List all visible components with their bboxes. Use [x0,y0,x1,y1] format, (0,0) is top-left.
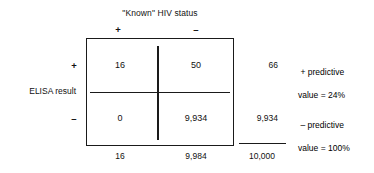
column-group-title: "Known" HIV status [122,8,197,19]
column-header-negative: – [193,24,198,35]
annotation-npv-line1: – predictive [300,120,343,130]
grand-total-rule [239,143,286,144]
horizontal-divider [90,92,230,94]
annotation-ppv-line2: value = 24% [291,90,345,102]
column-header-positive: + [115,24,121,35]
grand-total: 10,000 [249,151,275,162]
contingency-table-figure: "Known" HIV status + – ELISA result + – … [0,0,374,173]
row-total-negative: 9,934 [236,113,278,124]
annotation-npv-line2: value = 100% [291,143,350,155]
row-group-title: ELISA result [0,86,76,97]
column-total-negative: 9,984 [185,151,206,162]
row-total-positive: 66 [236,60,278,71]
cell-false-positive: 50 [191,60,201,71]
annotation-ppv-line1: + predictive [300,67,344,77]
cell-true-negative: 9,934 [185,113,208,124]
cell-false-negative: 0 [117,113,122,124]
annotation-negative-predictive-value: – predictive value = 100% [291,108,350,173]
cell-true-positive: 16 [115,60,125,71]
row-header-positive: + [71,60,77,71]
row-header-negative: – [71,113,76,124]
column-total-positive: 16 [115,151,124,162]
